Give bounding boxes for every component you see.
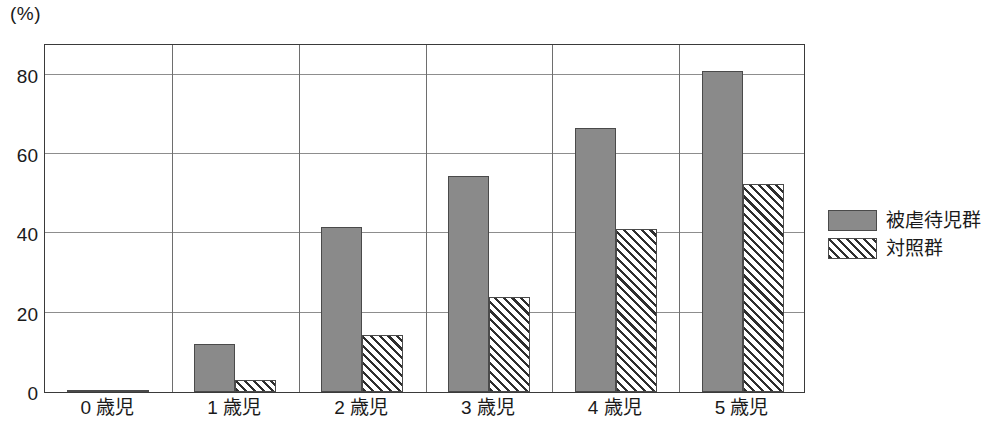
x-tick-label-3: 3 歳児 [425, 398, 552, 417]
chart-legend: 被虐待児群 対照群 [828, 206, 983, 262]
cell-divider-5 [679, 45, 680, 392]
bar-abused-1 [194, 344, 235, 392]
y-axis-tick-labels: 020406080 [0, 44, 38, 393]
solid-gray-swatch-icon [828, 210, 877, 231]
x-tick-label-1: 1 歳児 [171, 398, 298, 417]
bar-abused-3 [448, 176, 489, 392]
x-tick-label-5: 5 歳児 [678, 398, 805, 417]
plot-area [44, 44, 805, 393]
bar-control-5 [743, 184, 784, 392]
cell-divider-4 [552, 45, 553, 392]
hatched-swatch-icon [828, 238, 877, 259]
gridline-80 [45, 74, 804, 75]
bar-abused-0 [67, 390, 108, 392]
y-tick-label-20: 20 [0, 304, 38, 323]
x-axis-category-labels: 0 歳児1 歳児2 歳児3 歳児4 歳児5 歳児 [44, 398, 805, 438]
cell-divider-2 [299, 45, 300, 392]
cell-divider-3 [426, 45, 427, 392]
y-tick-label-80: 80 [0, 66, 38, 85]
y-tick-label-40: 40 [0, 225, 38, 244]
cell-divider-1 [172, 45, 173, 392]
x-tick-label-0: 0 歳児 [44, 398, 171, 417]
bar-control-4 [616, 229, 657, 392]
legend-label: 被虐待児群 [886, 211, 981, 230]
legend-item-abused-group: 被虐待児群 [828, 206, 983, 234]
y-axis-unit-label: (%) [10, 4, 41, 23]
x-tick-label-4: 4 歳児 [551, 398, 678, 417]
bar-control-3 [489, 297, 530, 392]
gridline-60 [45, 153, 804, 154]
legend-label: 対照群 [886, 239, 943, 258]
gridline-40 [45, 232, 804, 233]
bar-control-1 [235, 380, 276, 392]
bar-chart: (%) 020406080 0 歳児1 歳児2 歳児3 歳児4 歳児5 歳児 被… [0, 0, 985, 445]
x-tick-label-2: 2 歳児 [298, 398, 425, 417]
legend-item-control-group: 対照群 [828, 234, 983, 262]
y-tick-label-60: 60 [0, 146, 38, 165]
bar-control-0 [108, 390, 149, 392]
bar-abused-4 [575, 128, 616, 392]
bar-abused-5 [702, 71, 743, 392]
gridline-20 [45, 312, 804, 313]
bar-control-2 [362, 335, 403, 393]
bar-abused-2 [321, 227, 362, 392]
y-tick-label-0: 0 [0, 384, 38, 403]
